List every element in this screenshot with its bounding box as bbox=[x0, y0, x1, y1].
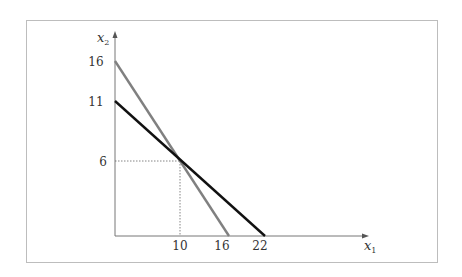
x-tick-10: 10 bbox=[172, 239, 187, 253]
x-tick-22: 22 bbox=[252, 239, 267, 253]
y-axis-arrow-icon bbox=[113, 31, 118, 38]
y-tick-16: 16 bbox=[88, 55, 103, 69]
chart-canvas: 16 11 6 10 16 22 x2 x1 bbox=[0, 0, 462, 277]
series-line-black bbox=[115, 101, 265, 236]
x-axis-label: x1 bbox=[364, 238, 376, 255]
y-axis-label: x2 bbox=[97, 30, 109, 47]
series-line-gray bbox=[115, 61, 229, 236]
y-tick-6: 6 bbox=[99, 155, 107, 169]
x-tick-16: 16 bbox=[214, 239, 229, 253]
y-tick-11: 11 bbox=[88, 95, 103, 109]
